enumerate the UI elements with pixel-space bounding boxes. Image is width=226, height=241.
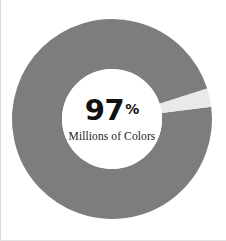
donut-chart-figure: 97 % Millions of Colors <box>0 0 226 241</box>
donut-chart-svg <box>0 0 226 241</box>
donut-slice-secondary[interactable] <box>183 96 186 110</box>
donut-center-hole <box>62 69 162 169</box>
